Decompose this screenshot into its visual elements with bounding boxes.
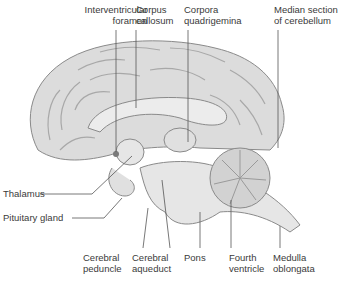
- label-corpus-callosum: Corpus callosum: [136, 4, 174, 26]
- label-medulla-oblongata: Medulla oblongata: [273, 252, 315, 274]
- label-line: Pituitary gland: [3, 212, 63, 223]
- label-line: aqueduct: [132, 263, 171, 274]
- label-line: Cerebral: [132, 252, 171, 263]
- label-line: quadrigemina: [184, 15, 242, 26]
- label-pons: Pons: [184, 252, 206, 263]
- label-line: Thalamus: [3, 188, 45, 199]
- label-line: Cerebral: [83, 252, 122, 263]
- label-line: callosum: [136, 15, 174, 26]
- label-line: Fourth: [229, 252, 264, 263]
- label-line: oblongata: [273, 263, 315, 274]
- label-pituitary-gland: Pituitary gland: [3, 212, 63, 223]
- label-line: Medulla: [273, 252, 315, 263]
- label-line: ventricle: [229, 263, 264, 274]
- corpora-quadrigemina: [164, 128, 196, 152]
- thalamus: [116, 139, 144, 165]
- label-line: Corpora: [184, 4, 242, 15]
- label-line: of cerebellum: [274, 15, 338, 26]
- label-line: Pons: [184, 252, 206, 263]
- label-line: peduncle: [83, 263, 122, 274]
- label-cerebral-peduncle: Cerebral peduncle: [83, 252, 122, 274]
- label-thalamus: Thalamus: [3, 188, 45, 199]
- label-cerebral-aqueduct: Cerebral aqueduct: [132, 252, 171, 274]
- label-corpora-quadrigemina: Corpora quadrigemina: [184, 4, 242, 26]
- label-line: Corpus: [136, 4, 174, 15]
- label-line: Median section: [274, 4, 338, 15]
- label-fourth-ventricle: Fourth ventricle: [229, 252, 264, 274]
- label-median-section-cerebellum: Median section of cerebellum: [274, 4, 338, 26]
- pituitary-gland: [109, 168, 135, 196]
